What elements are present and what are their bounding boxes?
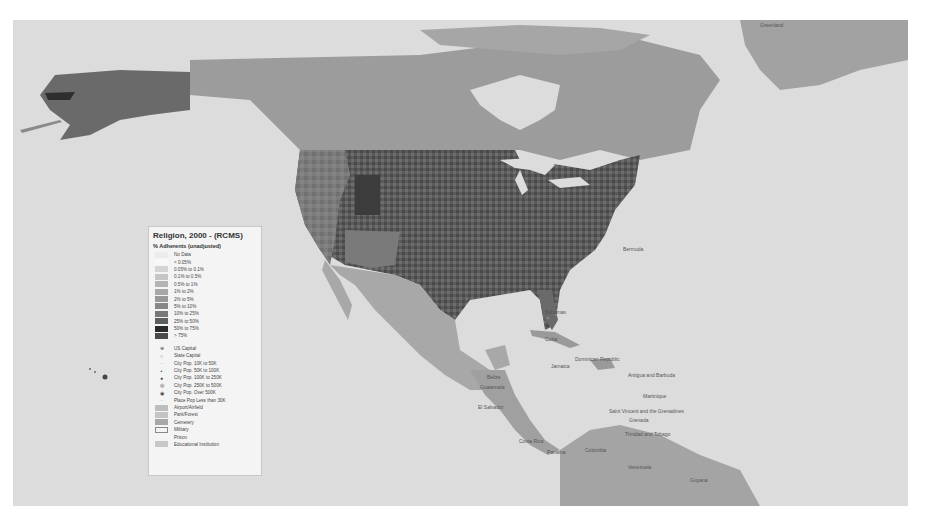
- map-label: Bahamas: [545, 309, 566, 315]
- map-label: Guyana: [690, 477, 708, 483]
- legend-swatch: [155, 311, 168, 317]
- us-capital-icon: ⊛: [155, 345, 168, 351]
- legend-swatch: [155, 281, 168, 287]
- legend-class-row: 1% to 2%: [153, 288, 257, 295]
- map-label: Bermuda: [623, 246, 643, 252]
- map-label: Belize: [487, 374, 501, 380]
- legend-symbol-row: ·Place Pop Less than 30K: [153, 396, 257, 403]
- legend-class-row: 2% to 5%: [153, 295, 257, 302]
- legend-symbol-row: ⊛US Capital: [153, 345, 257, 352]
- legend-class-row: > 75%: [153, 332, 257, 339]
- map-label: Martinique: [643, 393, 666, 399]
- city-large-icon: ●: [155, 375, 168, 381]
- central-america: [470, 370, 560, 455]
- map-label: Jamaica: [551, 363, 570, 369]
- legend-area-row: Cemetery: [153, 419, 257, 426]
- legend-title: Religion, 2000 - (RCMS): [153, 231, 257, 240]
- city-small-icon: ·: [155, 360, 168, 366]
- map-label: Cuba: [545, 336, 557, 342]
- legend-swatch: [155, 274, 168, 280]
- city-major-icon: ◉: [155, 390, 168, 396]
- legend-class-row: 0.5% to 1%: [153, 281, 257, 288]
- legend-area-row: Prison: [153, 433, 257, 440]
- map-label: Dominican Republic: [575, 356, 619, 362]
- park-swatch: [155, 412, 168, 418]
- map-label: Antigua and Barbuda: [628, 372, 675, 378]
- legend-class-row: 0.1% to 0.5%: [153, 273, 257, 280]
- legend-swatch: [155, 318, 168, 324]
- legend-symbol-row: ●City Pop. 100K to 250K: [153, 374, 257, 381]
- state-capital-icon: ○: [155, 353, 168, 359]
- legend-symbol-row: ◎City Pop. 250K to 500K: [153, 382, 257, 389]
- yucatan: [485, 345, 510, 370]
- hawaii: [103, 375, 108, 380]
- greenland: [740, 20, 908, 90]
- legend-subtitle: % Adherents (unadjusted): [153, 243, 257, 249]
- usa-southwest: [345, 230, 400, 268]
- legend-swatch: [155, 266, 168, 272]
- map-label: Trinidad and Tobago: [625, 431, 670, 437]
- legend-swatch: [155, 252, 168, 258]
- legend-swatch: [155, 296, 168, 302]
- legend-symbol-row: •City Pop. 50K to 100K: [153, 367, 257, 374]
- legend-symbol-row: ◉City Pop. Over 500K: [153, 389, 257, 396]
- map-label: Venezuela: [628, 464, 651, 470]
- legend-swatch: [155, 333, 168, 339]
- city-medium-icon: •: [155, 368, 168, 374]
- map-label: El Salvador: [478, 404, 504, 410]
- legend-swatch: [155, 289, 168, 295]
- legend-class-row: < 0.05%: [153, 258, 257, 265]
- legend-swatch: [155, 259, 168, 265]
- military-swatch: [155, 427, 168, 433]
- education-swatch: [155, 441, 168, 447]
- place-small-icon: ·: [155, 397, 168, 403]
- legend-class-row: 10% to 25%: [153, 310, 257, 317]
- map-legend: Religion, 2000 - (RCMS) % Adherents (una…: [148, 226, 262, 476]
- legend-class-row: 25% to 50%: [153, 318, 257, 325]
- legend-class-row: 50% to 75%: [153, 325, 257, 332]
- legend-area-row: Airport/Airfield: [153, 404, 257, 411]
- prison-swatch: [155, 434, 168, 440]
- south-america: [560, 425, 760, 506]
- alaska-dark-region: [45, 92, 75, 100]
- map-label: Colombia: [585, 447, 606, 453]
- map-label: Guatemala: [480, 384, 504, 390]
- legend-class-row: 5% to 10%: [153, 303, 257, 310]
- map-label: Greenland: [760, 22, 783, 28]
- map-label: Panama: [547, 449, 566, 455]
- map-label: Saint Vincent and the Grenadines: [609, 408, 684, 414]
- legend-area-row: Military: [153, 426, 257, 433]
- canada-region: [190, 40, 720, 160]
- legend-symbol-row: ·City Pop. 10K to 50K: [153, 359, 257, 366]
- alaska: [40, 70, 190, 140]
- map-label: Costa Rica: [519, 438, 543, 444]
- utah-region: [355, 175, 380, 215]
- map-label: Grenada: [629, 417, 648, 423]
- legend-symbol-row: ○State Capital: [153, 352, 257, 359]
- legend-swatch: [155, 326, 168, 332]
- legend-swatch: [155, 303, 168, 309]
- legend-area-row: Educational Institution: [153, 441, 257, 448]
- city-xlarge-icon: ◎: [155, 382, 168, 388]
- legend-class-row: 0.05% to 0.1%: [153, 266, 257, 273]
- legend-area-row: Park/Forest: [153, 411, 257, 418]
- cemetery-swatch: [155, 419, 168, 425]
- legend-class-row: No Data: [153, 251, 257, 258]
- airport-swatch: [155, 405, 168, 411]
